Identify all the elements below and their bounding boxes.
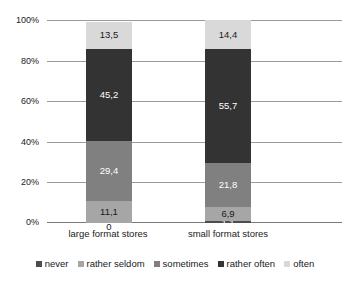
y-tick-80: 80% [0,56,39,65]
legend-swatch-rather-often-icon [218,261,224,267]
legend-item-sometimes[interactable]: sometimes [154,259,209,269]
stacked-bar-chart: 0 11,1 29,4 45,2 13,5 1,1 6,9 [0,0,350,284]
legend-item-rather-seldom[interactable]: rather seldom [78,259,145,269]
legend-label-never: never [45,259,69,269]
legend-item-rather-often[interactable]: rather often [218,259,276,269]
x-label-small-format-stores: small format stores [167,228,289,240]
x-axis: large format stores small format stores [47,228,342,242]
legend-label-often: often [293,259,314,269]
legend-item-often[interactable]: often [284,259,314,269]
legend-swatch-never-icon [36,261,42,267]
legend-swatch-often-icon [284,261,290,267]
legend-label-rather-seldom: rather seldom [87,259,145,269]
y-tick-20: 20% [0,178,39,187]
x-label-large-format-stores: large format stores [47,228,169,240]
legend-label-sometimes: sometimes [163,259,209,269]
legend-item-never[interactable]: never [36,259,69,269]
legend-swatch-sometimes-icon [154,261,160,267]
y-tick-60: 60% [0,97,39,106]
y-tick-0: 0% [0,218,39,227]
y-tick-40: 40% [0,137,39,146]
legend-swatch-rather-seldom-icon [78,261,84,267]
y-axis: 100% 80% 60% 40% 20% 0% [0,20,350,223]
chart-legend: never rather seldom sometimes rather oft… [0,259,350,269]
y-tick-100: 100% [0,16,39,25]
legend-label-rather-often: rather often [227,259,276,269]
